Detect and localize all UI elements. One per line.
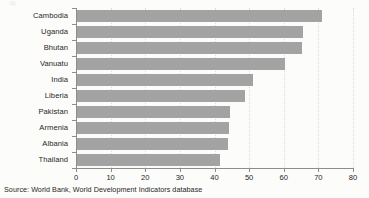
source-note: Source: World Bank, World Development In…: [4, 185, 202, 194]
x-axis-tick-label: 80: [343, 173, 363, 182]
category-label: Cambodia: [33, 11, 68, 20]
category-label: Albania: [42, 139, 68, 148]
category-label: Vanuatu: [40, 59, 68, 68]
category-label: Pakistan: [38, 107, 68, 116]
x-axis-tick-label: 30: [170, 173, 190, 182]
bar-row: [76, 138, 353, 150]
category-label: Uganda: [41, 27, 68, 36]
plot-area: [76, 8, 353, 168]
bar-row: [76, 122, 353, 134]
x-axis-tick: [111, 169, 112, 172]
x-axis-tick-label: 50: [239, 173, 259, 182]
category-label: Armenia: [39, 123, 68, 132]
y-axis-tick: [72, 136, 76, 137]
y-axis-tick: [72, 40, 76, 41]
bar-row: [76, 74, 353, 86]
x-axis-tick-label: 60: [274, 173, 294, 182]
bar-row: [76, 26, 353, 38]
bar: [76, 10, 322, 22]
x-axis-tick: [318, 169, 319, 172]
y-axis-tick: [72, 104, 76, 105]
bar: [76, 122, 229, 134]
category-axis-labels: CambodiaUgandaBhutanVanuatuIndiaLiberiaP…: [0, 8, 72, 168]
scan-artifact-speck: [9, 1, 16, 6]
bar: [76, 154, 220, 166]
bar: [76, 42, 302, 54]
x-axis-tick: [76, 169, 77, 172]
x-axis-tick: [180, 169, 181, 172]
category-label: Thailand: [38, 155, 68, 164]
x-axis-tick-label: 20: [135, 173, 155, 182]
bar-row: [76, 90, 353, 102]
y-axis-tick: [72, 88, 76, 89]
chart-figure: CambodiaUgandaBhutanVanuatuIndiaLiberiaP…: [0, 0, 369, 198]
gridline: [353, 8, 354, 168]
y-axis-tick: [72, 152, 76, 153]
bar-row: [76, 106, 353, 118]
y-axis-tick: [72, 24, 76, 25]
y-axis-tick: [72, 120, 76, 121]
bar: [76, 74, 253, 86]
category-label: India: [51, 75, 68, 84]
x-axis-tick: [249, 169, 250, 172]
x-axis-tick-label: 40: [205, 173, 225, 182]
bar: [76, 26, 303, 38]
x-axis-tick-label: 70: [308, 173, 328, 182]
bar-row: [76, 10, 353, 22]
x-axis-tick: [215, 169, 216, 172]
y-axis-tick: [72, 8, 76, 9]
bar: [76, 138, 228, 150]
y-axis-tick: [72, 72, 76, 73]
x-axis-tick: [284, 169, 285, 172]
category-label: Bhutan: [44, 43, 68, 52]
x-axis-tick: [353, 169, 354, 172]
bar: [76, 106, 230, 118]
bar-row: [76, 58, 353, 70]
x-axis-tick-label: 10: [101, 173, 121, 182]
category-label: Liberia: [45, 91, 68, 100]
bar: [76, 58, 285, 70]
bar-row: [76, 154, 353, 166]
bar: [76, 90, 245, 102]
x-axis-tick-label: 0: [66, 173, 86, 182]
x-axis-tick: [145, 169, 146, 172]
bar-row: [76, 42, 353, 54]
y-axis-tick: [72, 56, 76, 57]
y-axis-line: [76, 8, 77, 169]
